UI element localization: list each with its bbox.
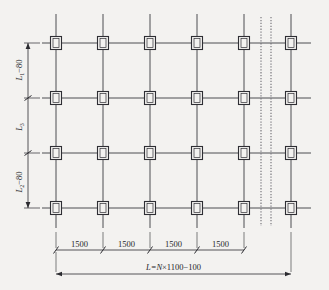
joint (51, 147, 62, 160)
vertical-dim-label-bottom: L2−80 (14, 171, 25, 193)
overall-dim-label: L=N×1100−100 (145, 262, 201, 272)
joint (192, 147, 203, 160)
segment-dim-label-4: 1500 (212, 239, 229, 249)
joint (192, 37, 203, 50)
joint (145, 37, 156, 50)
joint (51, 37, 62, 50)
vertical-dim-label-top: L1−80 (14, 59, 25, 81)
joint (145, 92, 156, 105)
joint (192, 92, 203, 105)
segment-dim-label-3: 1500 (165, 239, 182, 249)
segment-dim-label-1: 1500 (71, 239, 88, 249)
joint (51, 92, 62, 105)
joint (98, 92, 109, 105)
joint (51, 202, 62, 215)
overall-prefix: L= (145, 262, 156, 272)
joint (239, 92, 250, 105)
joint (239, 147, 250, 160)
vdim-top-rest: −80 (14, 59, 24, 72)
vdim-bot-rest: −80 (14, 171, 24, 184)
joint (145, 147, 156, 160)
joint (98, 147, 109, 160)
joint (286, 37, 297, 50)
joint (286, 147, 297, 160)
structural-grid-drawing: L1−80 L3 L2−80 1500 1500 1500 (0, 0, 329, 290)
segment-dim-label-2: 1500 (118, 239, 135, 249)
joint (98, 37, 109, 50)
joint (192, 202, 203, 215)
joint (239, 202, 250, 215)
vdim-mid-sub: 3 (19, 123, 25, 126)
overall-suffix: ×1100−100 (162, 262, 201, 272)
joint (239, 37, 250, 50)
joint (286, 202, 297, 215)
joint (98, 202, 109, 215)
joint (145, 202, 156, 215)
joint (286, 92, 297, 105)
